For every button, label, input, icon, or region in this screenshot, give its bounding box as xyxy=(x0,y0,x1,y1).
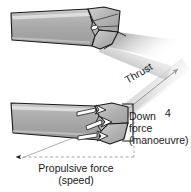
propulsive-force-label-line1: Propulsive force xyxy=(17,163,135,175)
down-force-label-line1: Down xyxy=(129,111,189,123)
down-force-label-line2: force xyxy=(129,123,189,135)
figure-container: Thrust Down force (manoeuvre) 4 Propulsi… xyxy=(0,0,191,192)
down-force-label: Down force (manoeuvre) xyxy=(129,111,189,146)
down-force-label-line3: (manoeuvre) xyxy=(129,135,189,147)
figure-number: 4 xyxy=(165,108,171,120)
propulsive-force-label-line2: (speed) xyxy=(17,175,135,187)
propulsive-force-label: Propulsive force (speed) xyxy=(17,163,135,187)
